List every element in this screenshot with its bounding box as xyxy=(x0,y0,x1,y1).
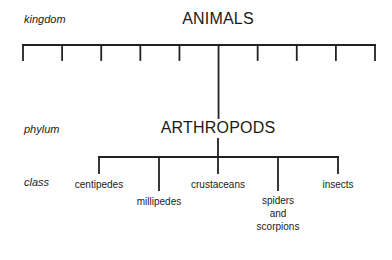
kingdom-branches xyxy=(23,45,375,118)
tree-connectors xyxy=(0,0,392,260)
